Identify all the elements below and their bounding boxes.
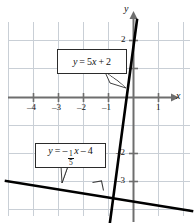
y-tick-label-neg2: –2 xyxy=(116,147,125,157)
equation-steep: y=5x+2 xyxy=(73,56,111,67)
equation-steep-intercept: 2 xyxy=(106,56,111,67)
equation-shallow-lhs: y xyxy=(48,145,52,156)
equation-shallow-intercept: 4 xyxy=(88,145,93,156)
equation-steep-lhs: y xyxy=(73,56,77,67)
y-tick-label-neg3: –3 xyxy=(116,175,125,185)
x-tick-label-neg1: –1 xyxy=(102,102,111,112)
equation-steep-eq: = xyxy=(79,56,85,67)
graph-figure: x y –4 –3 –2 –1 1 2 1 –2 –3 y=5x+2 y=–15… xyxy=(0,0,194,223)
x-axis-label: x xyxy=(176,90,180,101)
y-tick-label-pos2: 2 xyxy=(121,34,126,44)
callout-tail-shallow-fill xyxy=(61,166,68,183)
x-axis xyxy=(8,93,179,102)
x-tick-label-neg2: –2 xyxy=(77,102,86,112)
equation-steep-var: x xyxy=(92,56,96,67)
y-axis-label: y xyxy=(124,3,128,14)
x-tick-label-neg3: –3 xyxy=(52,102,61,112)
y-axis-arrow xyxy=(130,11,138,19)
callout-shallow-line: y=–15x–4 xyxy=(35,143,106,168)
equation-shallow-var: x xyxy=(74,145,78,156)
x-tick-label-neg4: –4 xyxy=(27,102,36,112)
equation-shallow-minus2: – xyxy=(81,145,86,156)
callout-steep-line: y=5x+2 xyxy=(57,49,127,74)
fraction-denominator: 5 xyxy=(68,158,74,167)
equation-shallow-eq: = xyxy=(55,145,61,156)
right-angle-marker-icon xyxy=(93,181,104,191)
equation-steep-plus: + xyxy=(98,56,104,67)
equation-shallow: y=–15x–4 xyxy=(48,145,92,167)
equation-shallow-minus: – xyxy=(62,145,67,156)
x-tick-label-pos1: 1 xyxy=(156,102,161,112)
fraction-numerator: 1 xyxy=(68,150,74,158)
equation-shallow-fraction: 15 xyxy=(68,150,74,166)
